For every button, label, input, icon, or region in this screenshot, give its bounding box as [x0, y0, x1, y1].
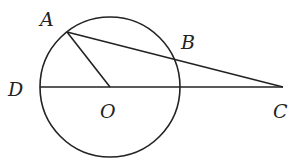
- diagram-svg: A B C D O: [0, 0, 299, 167]
- label-a: A: [38, 8, 54, 30]
- label-o: O: [100, 100, 116, 122]
- label-d: D: [7, 78, 23, 100]
- geometry-diagram: A B C D O: [0, 0, 299, 167]
- segment-ac: [67, 32, 283, 87]
- segment-ao: [67, 32, 110, 87]
- label-b: B: [180, 31, 195, 53]
- label-c: C: [273, 100, 288, 122]
